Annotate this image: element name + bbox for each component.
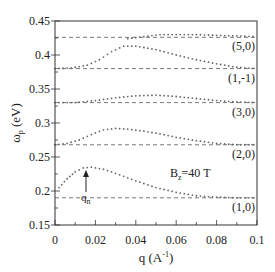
data-point (228, 35, 230, 37)
data-point (252, 144, 254, 146)
data-point (240, 197, 242, 199)
y-tick-label: 0.4 (35, 48, 50, 62)
data-point (82, 101, 84, 103)
data-point (155, 132, 157, 134)
data-point (139, 36, 141, 38)
data-point (216, 100, 218, 102)
data-point (236, 101, 238, 103)
data-point (69, 176, 71, 178)
data-point (78, 139, 80, 141)
data-point (151, 185, 153, 187)
data-point (232, 144, 234, 146)
data-point (220, 196, 222, 198)
data-point (216, 63, 218, 65)
data-point (183, 34, 185, 36)
data-point (119, 47, 121, 49)
data-point (151, 132, 153, 134)
data-point (131, 45, 133, 47)
data-point (224, 143, 226, 145)
data-point (248, 67, 250, 69)
data-point (212, 196, 214, 198)
data-point (236, 197, 238, 199)
data-point (200, 140, 202, 142)
data-point (163, 34, 165, 36)
data-point (228, 143, 230, 145)
data-point (187, 138, 189, 140)
data-point (147, 184, 149, 186)
data-point (167, 190, 169, 192)
data-point (179, 34, 181, 36)
data-point (123, 45, 125, 47)
data-point (66, 67, 68, 69)
data-point (131, 37, 133, 39)
y-axis-label: ωp (eV) (8, 103, 25, 143)
data-point (119, 174, 121, 176)
data-point (191, 194, 193, 196)
data-point (163, 51, 165, 53)
data-point (216, 196, 218, 198)
data-point (208, 99, 210, 101)
data-point (107, 98, 109, 100)
data-point (143, 130, 145, 132)
data-point (86, 64, 88, 66)
data-point (159, 94, 161, 96)
data-point (115, 128, 117, 130)
data-point (212, 62, 214, 64)
arrow-up-icon (83, 170, 89, 177)
data-point (183, 138, 185, 140)
data-point (131, 178, 133, 180)
data-point (95, 100, 97, 102)
data-point (58, 187, 60, 189)
data-point (212, 34, 214, 36)
data-point (171, 34, 173, 36)
data-point (167, 52, 169, 54)
data-point (90, 100, 92, 102)
data-point (135, 45, 137, 47)
data-point (171, 53, 173, 55)
data-point (244, 197, 246, 199)
data-point (187, 97, 189, 99)
data-point (58, 68, 60, 70)
data-point (179, 55, 181, 57)
data-point (163, 134, 165, 136)
x-axis-ticks: 00.020.040.060.080.1 (52, 220, 265, 247)
branch-label: (1,0) (232, 200, 255, 214)
branch-label: (3,0) (232, 105, 255, 119)
y-tick-label: 0.2 (35, 184, 50, 198)
data-point (139, 181, 141, 183)
data-point (204, 34, 206, 36)
data-point (123, 128, 125, 130)
data-point (167, 135, 169, 137)
data-point (66, 178, 68, 180)
data-point (220, 64, 222, 66)
data-point (228, 100, 230, 102)
data-point (139, 46, 141, 48)
data-point (175, 96, 177, 98)
data-point (151, 94, 153, 96)
data-point (200, 34, 202, 36)
x-tick-label: 0.08 (206, 233, 227, 247)
dispersion-curves (54, 34, 254, 199)
data-point (183, 56, 185, 58)
data-point (103, 168, 105, 170)
qn-annotation: qn (81, 170, 91, 206)
data-point (139, 130, 141, 132)
data-point (236, 144, 238, 146)
data-point (208, 141, 210, 143)
data-point (58, 102, 60, 104)
data-point (135, 129, 137, 131)
data-point (191, 58, 193, 60)
data-point (171, 191, 173, 193)
data-point (115, 97, 117, 99)
data-point (62, 67, 64, 69)
data-point (147, 47, 149, 49)
data-point (232, 197, 234, 199)
data-point (95, 167, 97, 169)
data-point (232, 101, 234, 103)
data-point (220, 143, 222, 145)
data-point (143, 183, 145, 185)
data-point (183, 193, 185, 195)
x-tick-label: 0.04 (125, 233, 146, 247)
data-point (155, 94, 157, 96)
data-point (220, 100, 222, 102)
